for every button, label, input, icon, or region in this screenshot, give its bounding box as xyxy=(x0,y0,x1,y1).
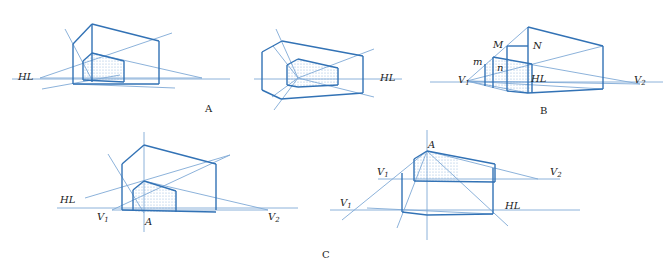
panel-a-right: HL xyxy=(254,29,402,110)
point-label: HL xyxy=(504,200,521,211)
perspective-diagram: HLHLMNmnV1HLV2HLV1AV2AV1V2V1HL A B C xyxy=(0,0,663,270)
panel-c-left: HLV1AV2 xyxy=(57,132,298,232)
point-label: m xyxy=(473,56,482,67)
box-edge xyxy=(402,212,427,215)
construction-line xyxy=(272,78,298,97)
box-edge xyxy=(92,24,159,41)
point-label: n xyxy=(497,62,503,73)
point-label: HL xyxy=(530,73,547,84)
point-label: A xyxy=(144,216,152,227)
construction-line xyxy=(65,29,92,80)
construction-line xyxy=(274,78,298,110)
box-edge xyxy=(73,24,92,44)
caption-a: A xyxy=(204,103,213,114)
caption-b: B xyxy=(540,105,547,116)
point-label: N xyxy=(532,40,543,51)
construction-line xyxy=(367,208,493,214)
box-edge xyxy=(262,41,282,52)
point-label: V1 xyxy=(97,211,109,224)
point-label: V1 xyxy=(377,166,389,179)
point-label: M xyxy=(492,39,504,50)
box-edge xyxy=(528,89,603,93)
panel-a-left: HL xyxy=(12,24,230,89)
box-edge xyxy=(262,90,281,99)
point-label: A xyxy=(427,139,435,150)
panel-b: MNmnV1HLV2 xyxy=(430,27,663,93)
point-label: V2 xyxy=(550,166,562,179)
point-label: HL xyxy=(17,71,34,82)
box-edge xyxy=(144,145,216,164)
box-edge xyxy=(282,41,363,56)
point-label: HL xyxy=(59,194,76,205)
caption-c: C xyxy=(322,249,330,260)
point-label: V2 xyxy=(634,74,646,87)
panel-c-right: AV1V2V1HL xyxy=(330,130,580,240)
construction-line xyxy=(42,75,120,89)
box-edge xyxy=(427,214,493,215)
point-label: HL xyxy=(379,72,396,83)
construction-line xyxy=(108,154,144,213)
point-label: V1 xyxy=(458,74,470,87)
box-edge xyxy=(281,93,363,99)
box-edge xyxy=(122,145,144,164)
point-label: V2 xyxy=(268,211,280,224)
panel-captions: A B C xyxy=(204,103,547,260)
diagram-panels: HLHLMNmnV1HLV2HLV1AV2AV1V2V1HL xyxy=(12,24,663,240)
point-label: V1 xyxy=(340,197,352,210)
box-edge xyxy=(414,181,495,182)
